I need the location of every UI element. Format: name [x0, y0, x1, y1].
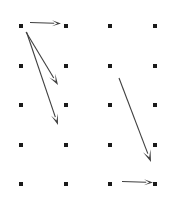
grid-dot-r4c2	[64, 143, 68, 147]
diagram-svg	[0, 0, 176, 197]
arrow-bottom-horizontal-shaft	[122, 182, 146, 183]
arrow-layer	[26, 20, 153, 185]
grid-dot-r1c1	[19, 24, 23, 28]
diagram-canvas	[0, 0, 176, 197]
grid-dot-r1c3	[108, 24, 112, 28]
grid-dot-r5c3	[108, 182, 112, 186]
grid-dot-r4c1	[19, 143, 23, 147]
dot-grid-layer	[19, 24, 157, 186]
grid-dot-r4c3	[108, 143, 112, 147]
grid-dot-r5c1	[19, 182, 23, 186]
grid-dot-r1c4	[153, 24, 157, 28]
grid-dot-r4c4	[153, 143, 157, 147]
grid-dot-r5c4	[153, 182, 157, 186]
grid-dot-r1c2	[64, 24, 68, 28]
grid-dot-r2c2	[64, 64, 68, 68]
grid-dot-r2c4	[153, 64, 157, 68]
arrow-right-diagonal-shaft	[119, 78, 148, 154]
arrow-upper-left-diagonal-long-shaft	[27, 32, 56, 117]
grid-dot-r5c2	[64, 182, 68, 186]
arrow-top-horizontal-shaft	[30, 23, 54, 24]
grid-dot-r3c4	[153, 103, 157, 107]
grid-dot-r3c2	[64, 103, 68, 107]
grid-dot-r3c3	[108, 103, 112, 107]
grid-dot-r2c3	[108, 64, 112, 68]
arrow-upper-left-diagonal-short-head	[49, 74, 58, 85]
grid-dot-r2c1	[19, 64, 23, 68]
grid-dot-r3c1	[19, 103, 23, 107]
